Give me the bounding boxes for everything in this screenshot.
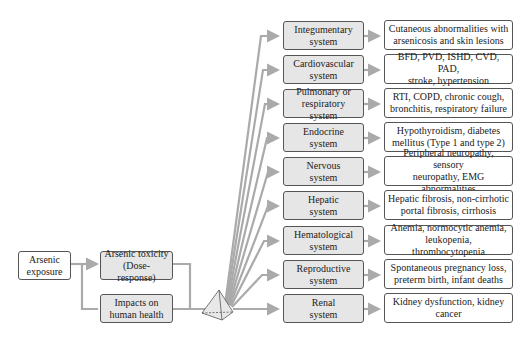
system-label: Hepatic xyxy=(308,194,339,206)
effect-label: stroke, hypertension xyxy=(388,75,509,87)
effect-label: BFD, PVD, ISHD, CVD, PAD, xyxy=(388,51,509,75)
node-label: exposure xyxy=(26,266,62,278)
system-label: Hematological xyxy=(294,229,353,241)
system-label: system xyxy=(294,241,353,253)
effect-label: arsenicosis and skin lesions xyxy=(389,35,508,47)
effect-label: bronchitis, respiratory failure xyxy=(390,103,507,115)
system-label: system xyxy=(293,70,354,82)
effect-label: preterm birth, infant deaths xyxy=(391,274,507,286)
system-label: Nervous xyxy=(307,160,341,172)
effect-node-pulmonary: RTI, COPD, chronic cough,bronchitis, res… xyxy=(384,88,513,118)
system-label: Cardiovascular xyxy=(293,58,354,70)
effect-node-cardiovascular: BFD, PVD, ISHD, CVD, PAD,stroke, hyperte… xyxy=(384,54,513,84)
system-label: system xyxy=(294,36,352,48)
system-node-pulmonary: Pulmonary orrespiratory system xyxy=(283,89,364,118)
arsenic-health-impact-diagram: Arsenic exposure Arsenic toxicity (Dose-… xyxy=(0,0,531,338)
system-node-cardiovascular: Cardiovascularsystem xyxy=(283,55,364,84)
effect-label: Spontaneous pregnancy loss, xyxy=(391,262,507,274)
system-label: system xyxy=(297,275,351,287)
effect-node-hepatic: Hepatic fibrosis, non-cirrhoticportal fi… xyxy=(384,190,513,220)
system-label: respiratory system xyxy=(287,98,360,122)
effect-label: Peripheral neuropathy, sensory xyxy=(388,147,509,171)
effect-label: cancer xyxy=(393,308,504,320)
effect-label: leukopenia, thrombocytopenia xyxy=(388,234,509,258)
effect-node-integumentary: Cutaneous abnormalities witharsenicosis … xyxy=(384,20,513,50)
system-label: Pulmonary or xyxy=(287,86,360,98)
system-node-reproductive: Reproductivesystem xyxy=(283,260,364,289)
system-node-endocrine: Endocrinesystem xyxy=(283,123,364,152)
node-label: Impacts on xyxy=(109,297,163,309)
effect-node-renal: Kidney dysfunction, kidneycancer xyxy=(384,293,513,323)
node-label: (Dose-response) xyxy=(104,260,169,284)
node-label: Arsenic xyxy=(26,254,62,266)
system-node-renal: Renalsystem xyxy=(283,294,364,323)
system-label: Renal xyxy=(310,297,338,309)
effect-label: Hepatic fibrosis, non-cirrhotic xyxy=(388,193,509,205)
arsenic-toxicity-node: Arsenic toxicity (Dose-response) xyxy=(100,251,173,280)
system-label: system xyxy=(307,172,341,184)
effect-label: Anemia, normocytic anemia, xyxy=(388,222,509,234)
system-label: Reproductive xyxy=(297,263,351,275)
effect-label: Cutaneous abnormalities with xyxy=(389,23,508,35)
node-label: human health xyxy=(109,309,163,321)
effect-label: RTI, COPD, chronic cough, xyxy=(390,91,507,103)
effect-node-hematological: Anemia, normocytic anemia,leukopenia, th… xyxy=(384,225,513,255)
arsenic-exposure-node: Arsenic exposure xyxy=(18,251,71,280)
system-label: system xyxy=(310,309,338,321)
system-node-nervous: Nervoussystem xyxy=(283,157,364,186)
system-node-integumentary: Integumentarysystem xyxy=(283,21,364,50)
effect-node-reproductive: Spontaneous pregnancy loss,preterm birth… xyxy=(384,259,513,289)
system-label: system xyxy=(308,206,339,218)
effect-node-nervous: Peripheral neuropathy, sensoryneuropathy… xyxy=(384,156,513,186)
node-label: Arsenic toxicity xyxy=(104,248,169,260)
effect-label: Kidney dysfunction, kidney xyxy=(393,296,504,308)
system-node-hematological: Hematologicalsystem xyxy=(283,226,364,255)
effect-label: portal fibrosis, cirrhosis xyxy=(388,205,509,217)
impacts-on-health-node: Impacts on human health xyxy=(100,294,173,323)
system-label: system xyxy=(303,138,344,150)
system-node-hepatic: Hepaticsystem xyxy=(283,191,364,220)
effect-label: Hypothyroidism, diabetes xyxy=(392,125,505,137)
system-label: Integumentary xyxy=(294,24,352,36)
system-label: Endocrine xyxy=(303,126,344,138)
